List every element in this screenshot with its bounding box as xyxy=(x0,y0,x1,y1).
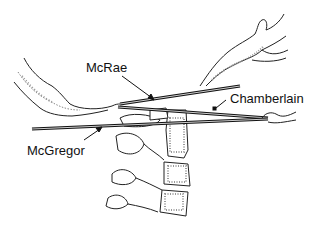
mcrae-pointer xyxy=(122,76,152,98)
craniometric-diagram xyxy=(0,0,321,227)
label-mcrae: McRae xyxy=(86,61,127,74)
label-chamberlain: Chamberlain xyxy=(230,92,304,105)
chamberlain-pointer xyxy=(216,100,226,108)
clivus-sphenoid xyxy=(200,14,288,86)
label-mcgregor: McGregor xyxy=(27,144,85,157)
